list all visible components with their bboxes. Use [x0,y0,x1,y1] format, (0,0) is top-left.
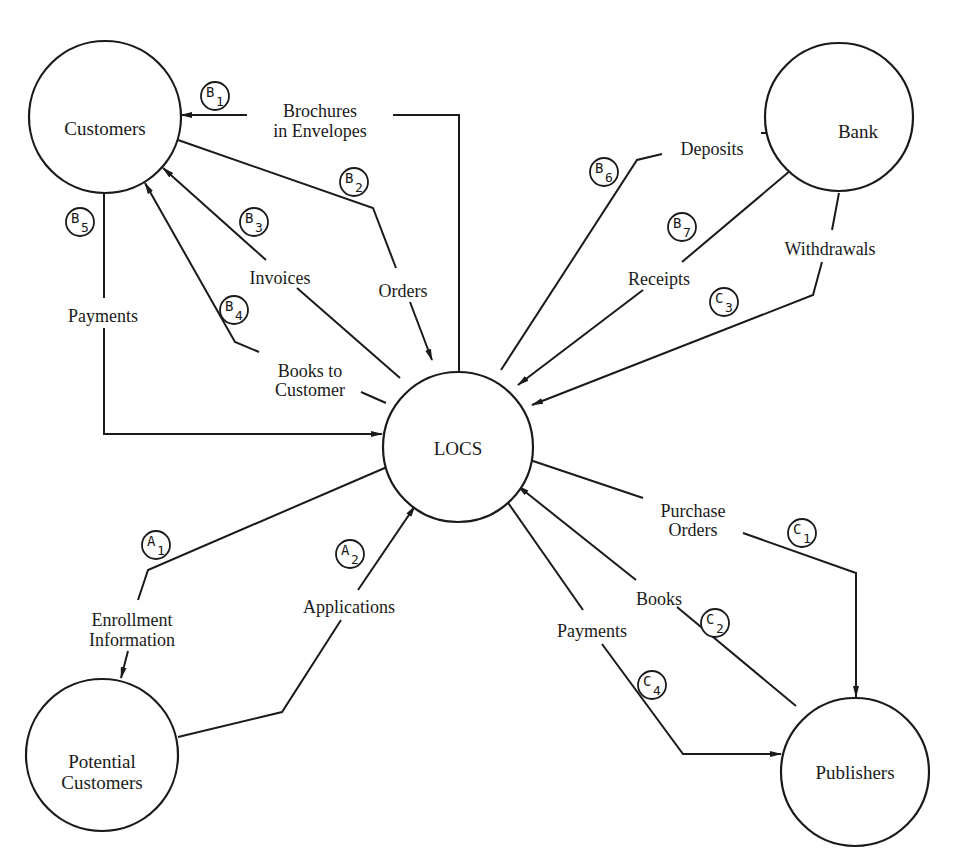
flow-c1-line-left [530,460,643,498]
svg-text:4: 4 [653,683,661,698]
flow-c1-label-line2: Orders [669,520,718,540]
tag-c3: C 3 [710,288,738,316]
tag-c1: C 1 [788,519,816,547]
node-customers-label: Customers [64,118,145,139]
flow-b4-line-lower [361,392,386,403]
svg-text:C: C [793,521,801,537]
flow-c4-label: Payments [557,621,627,641]
svg-text:7: 7 [683,225,691,240]
node-bank[interactable]: Bank [765,43,913,191]
svg-text:2: 2 [355,180,363,195]
flow-a1-label-line2: Information [89,630,175,650]
flow-c4-line-upper [504,497,583,610]
tag-c2: C 2 [701,609,729,637]
svg-text:3: 3 [255,220,263,235]
svg-text:1: 1 [157,543,165,558]
flow-b4-label-line1: Books to [278,361,343,381]
node-customers[interactable]: Customers [29,41,181,193]
tag-b2: B 2 [340,168,368,196]
flow-a2-label: Applications [303,597,395,617]
flow-b1-line-right [393,115,459,375]
flow-a2-applications [178,506,415,737]
flow-b7-line-lower [518,290,643,385]
flow-b1-label-line1: Brochures [283,101,357,121]
flow-b4-label-line2: Customer [275,380,345,400]
flow-a2-line-lower [178,620,341,737]
flow-b5-label: Payments [68,306,138,326]
svg-text:2: 2 [716,621,724,636]
flow-c2-label: Books [636,589,682,609]
svg-text:1: 1 [216,94,224,109]
flow-b7-label: Receipts [628,269,690,289]
flow-c4-line-lower [602,644,781,754]
flow-b2-orders [178,140,432,360]
tag-b1: B 1 [201,82,229,110]
flow-b4-line-upper [145,183,259,352]
svg-text:B: B [673,215,681,231]
flow-b6-deposits [501,133,783,370]
flow-a1-line-lower [121,651,128,678]
flow-c2-line-lower [677,607,796,706]
node-potential-customers-label-line1: Potential [68,751,136,772]
flow-b2-line-lower [410,302,432,360]
tag-b3: B 3 [240,208,268,236]
tag-b6: B 6 [590,158,618,186]
svg-text:B: B [71,210,79,226]
node-potential-customers[interactable]: Potential Customers [26,679,178,831]
node-locs-label: LOCS [434,438,483,459]
flow-b1-brochures [181,115,459,375]
svg-text:A: A [147,533,156,549]
svg-text:4: 4 [235,308,243,323]
flow-b3-label: Invoices [250,268,311,288]
svg-text:C: C [706,611,714,627]
tag-b7: B 7 [668,213,696,241]
svg-text:5: 5 [81,220,89,235]
flow-c1-line-right [743,533,856,697]
context-diagram: Customers Bank LOCS Potential Customers … [0,0,962,864]
svg-text:B: B [245,210,253,226]
flow-c3-line-upper [832,193,839,230]
tag-b5: B 5 [66,208,94,236]
flow-b1-label-line2: in Envelopes [273,121,366,141]
svg-text:B: B [345,170,353,186]
flow-c4-payments [504,497,781,754]
node-potential-customers-label-line2: Customers [61,772,142,793]
flow-c1-label-line1: Purchase [661,501,726,521]
flow-a1-label-line1: Enrollment [92,610,173,630]
svg-text:6: 6 [605,170,613,185]
tag-a1: A 1 [142,531,170,559]
svg-text:B: B [225,298,233,314]
flow-b6-label: Deposits [681,139,744,159]
node-locs[interactable]: LOCS [383,372,533,522]
svg-text:3: 3 [725,300,733,315]
flow-c3-label: Withdrawals [784,239,875,259]
node-publishers-label: Publishers [815,762,894,783]
flow-a1-line-upper [138,467,387,600]
flow-c1-purchase-orders [530,460,856,697]
svg-text:B: B [595,160,603,176]
node-bank-label: Bank [838,121,879,142]
tag-b4: B 4 [220,296,248,324]
flow-b7-line-upper [682,165,797,262]
flow-a2-line-upper [358,506,415,590]
tag-a2: A 2 [336,540,364,568]
svg-text:1: 1 [803,531,811,546]
svg-text:2: 2 [351,552,359,567]
node-publishers[interactable]: Publishers [781,698,929,846]
tag-c4: C 4 [638,671,666,699]
svg-text:C: C [715,290,723,306]
svg-text:A: A [341,542,350,558]
flow-b2-line-upper [178,140,396,268]
flow-b2-label: Orders [379,281,428,301]
flow-c2-line-upper [518,486,636,580]
svg-text:C: C [643,673,651,689]
svg-text:B: B [206,84,214,100]
